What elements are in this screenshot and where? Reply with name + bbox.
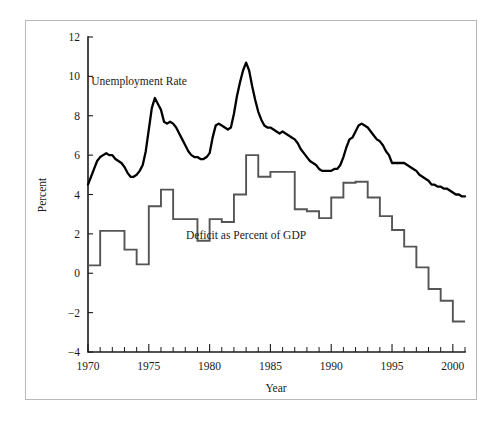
data-series <box>88 63 465 322</box>
x-tick-label: 1975 <box>137 360 160 372</box>
y-tick-label: −2 <box>68 307 80 319</box>
y-tick-label: 10 <box>69 70 81 82</box>
series-annotation: Deficit as Percent of GDP <box>186 229 306 241</box>
x-tick-label: 1985 <box>259 360 282 372</box>
economic-indicators-chart: −4−2024681012 19701975198019851990199520… <box>0 0 502 423</box>
x-tick-label: 1990 <box>320 360 343 372</box>
x-tick-label: 1970 <box>77 360 100 372</box>
y-tick-label: −4 <box>68 346 80 358</box>
y-tick-label: 2 <box>74 228 80 240</box>
y-tick-label: 8 <box>74 110 80 122</box>
y-tick-label: 12 <box>69 31 81 43</box>
x-axis-title: Year <box>265 382 286 394</box>
x-tick-label: 1995 <box>381 360 404 372</box>
y-tick-label: 0 <box>74 267 80 279</box>
x-tick-label: 2000 <box>441 360 464 372</box>
y-tick-label: 4 <box>74 189 80 201</box>
y-axis-ticks: −4−2024681012 <box>68 31 93 358</box>
x-axis-ticks: 1970197519801985199019952000 <box>77 344 466 372</box>
y-tick-label: 6 <box>74 149 80 161</box>
y-axis-title: Percent <box>36 177 48 212</box>
series-annotation: Unemployment Rate <box>91 75 187 88</box>
x-tick-label: 1980 <box>198 360 221 372</box>
